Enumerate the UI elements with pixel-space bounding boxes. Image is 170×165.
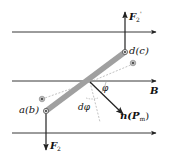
force-bottom-subscript: 2 bbox=[57, 145, 61, 152]
label-angle-phi: φ bbox=[102, 84, 108, 93]
corner-ab-icon bbox=[43, 108, 48, 113]
label-angle-dphi: dφ bbox=[78, 103, 90, 112]
dphi-arc bbox=[86, 98, 98, 99]
label-corner-ab: a(b) bbox=[19, 105, 39, 115]
label-force-f2-prime: F2' bbox=[129, 11, 142, 23]
label-corner-dc: d(c) bbox=[129, 46, 149, 56]
normal-close-paren: ) bbox=[145, 110, 149, 121]
normal-symbol: n(P bbox=[120, 110, 140, 121]
current-out-of-page-right-icon bbox=[130, 60, 136, 66]
force-top-prime: ' bbox=[140, 10, 142, 17]
corner-dc-icon bbox=[122, 49, 127, 54]
label-field-b: B bbox=[150, 86, 158, 96]
current-out-of-page-left-icon bbox=[39, 96, 45, 102]
force-top-subscript: 2 bbox=[136, 16, 140, 23]
current-loop-diagram bbox=[0, 0, 170, 165]
label-normal-vector: n(Pm) bbox=[120, 111, 149, 122]
label-force-f2: F2 bbox=[50, 141, 61, 152]
dashed-line-dphi-1 bbox=[90, 82, 100, 122]
